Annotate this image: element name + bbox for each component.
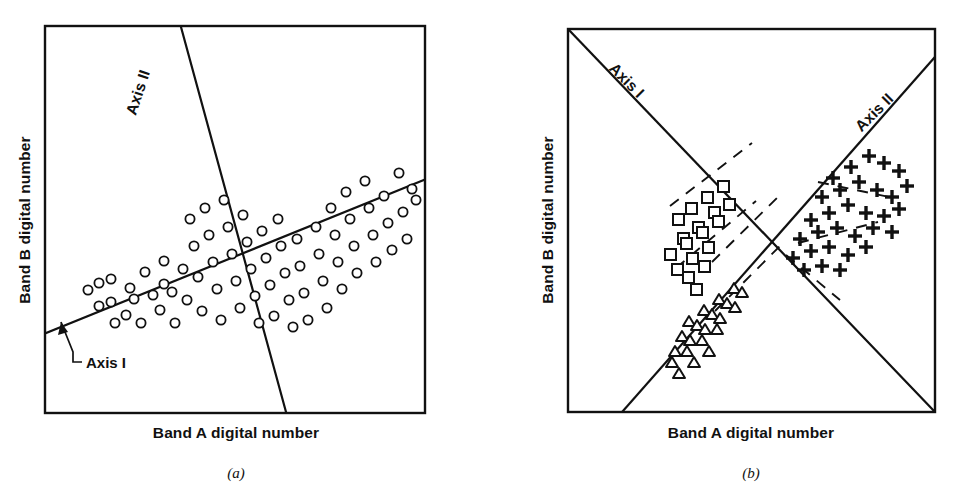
axis-1-leader-a: [58, 322, 82, 362]
ylabel-group-b: Band B digital number: [539, 136, 556, 303]
ylabel-b: Band B digital number: [539, 136, 556, 303]
xlabel-a: Band A digital number: [153, 424, 319, 441]
axis-2-line-a: [181, 27, 286, 412]
axis-2-label-b: Axis II: [852, 90, 897, 135]
axis-1-label-group-b: Axis I: [606, 59, 648, 101]
figure-panel-a: Axis II Axis I Band B digital number Ban…: [0, 0, 480, 504]
ylabel-group-a: Band B digital number: [16, 136, 33, 303]
panel-caption-b: (b): [742, 465, 760, 482]
axis-1-label-a: Axis I: [86, 354, 126, 371]
ylabel-a: Band B digital number: [16, 136, 33, 303]
axis-1-label-b: Axis I: [606, 59, 648, 101]
xlabel-b: Band A digital number: [668, 424, 834, 441]
axis-2-label-group-a: Axis II: [123, 68, 153, 117]
panel-caption-a: (a): [227, 465, 245, 482]
axis-2-line-b: [623, 58, 934, 411]
axis-2-label-a: Axis II: [123, 68, 153, 117]
cluster-squares-b: [665, 181, 735, 295]
cluster-plus-b: [786, 149, 914, 277]
axis-2-label-group-b: Axis II: [852, 90, 897, 135]
cluster-triangles-b: [666, 283, 748, 378]
figure-panel-b: Axis I Axis II Band B digital number Ban…: [480, 0, 960, 504]
panel-b-svg: Axis I Axis II Band B digital number Ban…: [480, 0, 960, 504]
panel-a-svg: Axis II Axis I Band B digital number Ban…: [0, 0, 480, 504]
